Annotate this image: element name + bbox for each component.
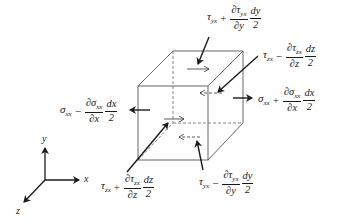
axis-z <box>24 180 45 202</box>
axis-x-label: x <box>84 173 88 184</box>
label-half-differential: dz 2 <box>143 175 154 199</box>
label-sigma-xx-left: σxx − ∂σxx ∂x dx 2 <box>60 98 118 125</box>
label-operator: − <box>75 106 81 117</box>
label-operator: − <box>276 51 282 62</box>
label-operator: − <box>212 178 218 189</box>
leader-arrow-top <box>198 37 209 64</box>
cube-edge-depth-tr <box>208 51 243 86</box>
label-base: τzx <box>263 49 273 63</box>
label-tau-yx-top: τyx + ∂τyx ∂y dy 2 <box>207 5 262 32</box>
label-base: τyx <box>207 11 217 25</box>
cube-edge-depth-br <box>208 123 243 160</box>
label-base: σxx <box>60 104 72 118</box>
label-tau-yx-bottom: τyx − ∂τyx ∂y dy 2 <box>199 170 254 197</box>
label-derivative: ∂τyx ∂y <box>222 170 239 197</box>
cube <box>138 51 243 160</box>
label-base: σxx <box>258 93 270 107</box>
leader-arrow-back-right <box>218 56 258 92</box>
coordinate-axes <box>24 148 79 202</box>
label-derivative: ∂τyx ∂y <box>230 5 247 32</box>
label-tau-zx-front: τzx + ∂τzx ∂z dz 2 <box>101 174 155 201</box>
label-derivative: ∂σxx ∂x <box>283 87 302 114</box>
label-operator: + <box>273 95 279 106</box>
label-base: τyx <box>199 176 209 190</box>
leader-arrows <box>127 37 258 172</box>
label-half-differential: dz 2 <box>305 44 316 68</box>
label-tau-zx-back: τzx − ∂τzx ∂z dz 2 <box>263 43 317 70</box>
label-half-differential: dx 2 <box>105 99 117 123</box>
leader-arrow-bottom <box>197 141 203 170</box>
label-half-differential: dx 2 <box>303 88 315 112</box>
label-half-differential: dy 2 <box>250 6 262 30</box>
label-half-differential: dy 2 <box>242 171 254 195</box>
cube-hidden-edge-depth <box>138 123 173 160</box>
cube-edge-depth-tl <box>138 51 173 86</box>
label-derivative: ∂τzx ∂z <box>124 174 141 201</box>
leader-arrow-front <box>127 123 168 172</box>
label-derivative: ∂σxx ∂x <box>85 98 104 125</box>
axis-z-label: z <box>16 205 20 216</box>
label-base: τzx <box>101 180 111 194</box>
label-operator: + <box>220 13 226 24</box>
label-sigma-xx-right: σxx + ∂σxx ∂x dx 2 <box>258 87 316 114</box>
label-operator: + <box>114 182 120 193</box>
label-derivative: ∂τzx ∂z <box>286 43 303 70</box>
axis-y-label: y <box>42 133 46 144</box>
